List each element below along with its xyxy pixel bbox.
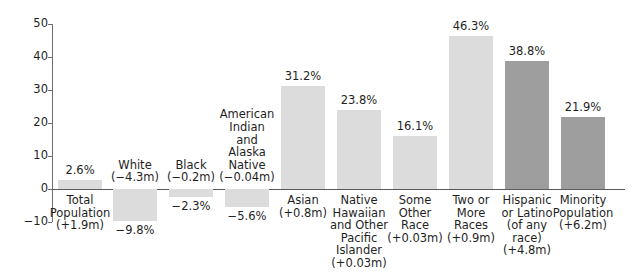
bar-group[interactable]: 21.9%Minority Population (+6.2m) <box>561 0 605 277</box>
y-tick-label: 10 <box>8 150 48 162</box>
bar[interactable] <box>281 86 325 189</box>
bar-value-label: 21.9% <box>565 102 602 114</box>
bar[interactable] <box>225 189 269 207</box>
bar-category-label: American Indian and Alaska Native (−0.04… <box>214 108 280 184</box>
bar-value-label: 31.2% <box>285 71 322 83</box>
bar-value-label: −5.6% <box>228 211 267 223</box>
y-tick-mark <box>48 156 52 157</box>
plot-area: −1001020304050 2.6%Total Population (+1.… <box>0 0 641 277</box>
bar[interactable] <box>113 189 157 221</box>
y-tick-mark <box>48 189 52 190</box>
y-tick-mark <box>48 24 52 25</box>
bar[interactable] <box>449 36 493 189</box>
bar-group[interactable]: 16.1%Some Other Race (+0.03m) <box>393 0 437 277</box>
bar-group[interactable]: 2.6%Total Population (+1.9m) <box>58 0 102 277</box>
y-tick-mark <box>48 90 52 91</box>
y-tick-label: −10 <box>8 216 48 228</box>
bar-value-label: 16.1% <box>397 121 434 133</box>
y-tick-label: 0 <box>8 183 48 195</box>
y-tick-mark <box>48 123 52 124</box>
bar-category-label: Minority Population (+6.2m) <box>550 194 616 232</box>
bar-group[interactable]: −2.3%Black (−0.2m) <box>169 0 213 277</box>
y-axis-line <box>52 24 53 222</box>
y-tick-label: 20 <box>8 117 48 129</box>
bar-value-label: 46.3% <box>453 21 490 33</box>
bar[interactable] <box>393 136 437 189</box>
bar-group[interactable]: −9.8%White (−4.3m) <box>113 0 157 277</box>
bar-value-label: −2.3% <box>172 201 211 213</box>
bar-value-label: −9.8% <box>116 225 155 237</box>
bar[interactable] <box>337 110 381 189</box>
bar-group[interactable]: 31.2%Asian (+0.8m) <box>281 0 325 277</box>
bar[interactable] <box>58 180 102 189</box>
bar-category-label: Total Population (+1.9m) <box>47 194 113 232</box>
bar-group[interactable]: 46.3%Two or More Races (+0.9m) <box>449 0 493 277</box>
y-tick-label: 30 <box>8 84 48 96</box>
bar-group[interactable]: 23.8%Native Hawaiian and Other Pacific I… <box>337 0 381 277</box>
bar-chart: −1001020304050 2.6%Total Population (+1.… <box>0 0 641 277</box>
bar-group[interactable]: 38.8%Hispanic or Latino (of any race) (+… <box>505 0 549 277</box>
bar-value-label: 2.6% <box>65 165 94 177</box>
y-tick-label: 50 <box>8 18 48 30</box>
bar-value-label: 23.8% <box>341 95 378 107</box>
bar[interactable] <box>505 61 549 189</box>
y-tick-mark <box>48 57 52 58</box>
bar-value-label: 38.8% <box>509 46 546 58</box>
bar[interactable] <box>169 189 213 197</box>
bar-group[interactable]: −5.6%American Indian and Alaska Native (… <box>225 0 269 277</box>
bar[interactable] <box>561 117 605 189</box>
y-tick-label: 40 <box>8 51 48 63</box>
